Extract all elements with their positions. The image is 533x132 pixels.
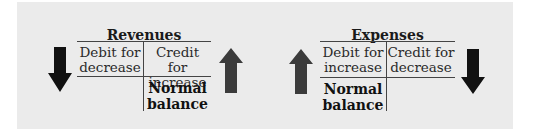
revenues-debit-label: Debit for decrease bbox=[77, 45, 143, 75]
expenses-top-rule bbox=[320, 41, 455, 42]
expenses-credit-label: Credit for decrease bbox=[387, 45, 455, 75]
arrow-up-icon bbox=[289, 49, 313, 94]
revenues-normal-balance: Normal balance bbox=[144, 80, 211, 112]
expenses-normal-balance: Normal balance bbox=[320, 81, 386, 113]
arrow-up-icon bbox=[219, 48, 243, 93]
expenses-debit-label: Debit for increase bbox=[320, 45, 386, 75]
revenues-top-rule bbox=[77, 41, 211, 42]
arrow-down-icon bbox=[461, 49, 485, 94]
arrow-down-icon bbox=[48, 47, 72, 92]
expenses-mid-rule bbox=[320, 77, 455, 78]
